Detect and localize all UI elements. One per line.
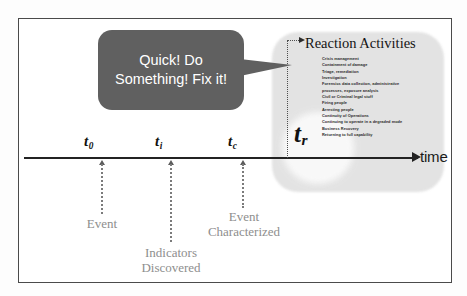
tick-label-tc: tc [228, 133, 236, 150]
speech-bubble-line1: Quick! Do [115, 51, 227, 70]
list-item: Returning to full capability [322, 132, 446, 138]
tick-subscript-tr: r [301, 131, 307, 148]
tick-label-tr: tr [294, 120, 307, 148]
tick-connector-t0 [101, 164, 103, 214]
caption-indicators-line2: Discovered [126, 261, 216, 276]
tick-label-ti: ti [155, 133, 162, 150]
tick-subscript-ti: i [160, 141, 163, 151]
tick-connector-ti [170, 164, 172, 242]
tick-connector-tc [242, 164, 244, 208]
speech-bubble-tail [240, 59, 292, 76]
reaction-activities-list: Crisis management Containment of damage … [322, 56, 446, 138]
speech-bubble-line2: Something! Fix it! [115, 70, 227, 89]
reaction-activities-title: Reaction Activities [305, 35, 416, 52]
caption-characterized-line1: Event [196, 210, 292, 225]
axis-label-time: time [420, 148, 448, 165]
tick-symbol-tc: t [228, 133, 232, 149]
caption-event: Event [62, 217, 142, 232]
caption-characterized-line2: Characterized [196, 225, 292, 240]
tick-symbol-tr: t [294, 120, 301, 147]
timeline-axis [24, 157, 418, 159]
caption-event-line1: Event [62, 217, 142, 232]
tick-subscript-t0: 0 [89, 141, 94, 151]
speech-bubble: Quick! Do Something! Fix it! [98, 30, 244, 110]
figure-canvas: time t0 Event ti Indicators Discovered t… [0, 0, 467, 296]
caption-indicators-line1: Indicators [126, 246, 216, 261]
caption-event-characterized: Event Characterized [196, 210, 292, 239]
tick-subscript-tc: c [233, 141, 237, 151]
tick-symbol-ti: t [155, 133, 159, 149]
tick-label-t0: t0 [84, 133, 93, 150]
tick-symbol-t0: t [84, 133, 88, 149]
caption-indicators-discovered: Indicators Discovered [126, 246, 216, 275]
speech-bubble-text: Quick! Do Something! Fix it! [98, 30, 244, 110]
